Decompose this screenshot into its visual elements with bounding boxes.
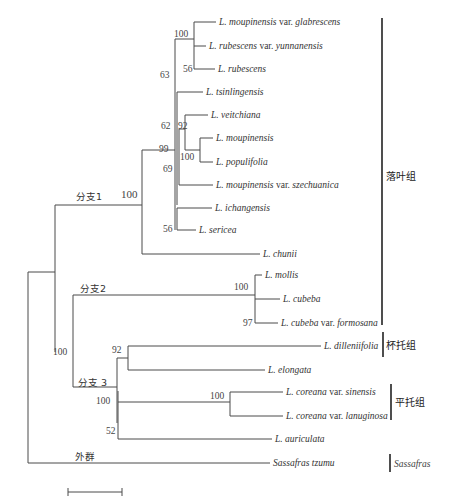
tip-label: L. rubescens <box>217 64 266 74</box>
tip-label: L. chunii <box>262 249 297 259</box>
tip-label: L. dilleniifolia <box>323 341 379 351</box>
support-value: 56 <box>163 224 173 234</box>
support-value: 100 <box>234 282 249 292</box>
support-value: 100 <box>53 347 68 357</box>
group-labels: 落叶组 杯托组 平托组 Sassafras <box>386 170 431 469</box>
phylogenetic-tree: L. moupinensis var. glabrescensL. rubesc… <box>0 0 449 497</box>
clade-label-3: 分支 3 <box>78 377 107 388</box>
support-value: 52 <box>106 426 116 436</box>
support-value: 69 <box>163 164 173 174</box>
support-value: 100 <box>180 152 195 162</box>
support-value: 62 <box>161 121 171 131</box>
tip-label: L. cubeba var. formosana <box>280 318 378 328</box>
tip-labels: L. moupinensis var. glabrescensL. rubesc… <box>198 17 388 468</box>
tip-label: L. populifolia <box>215 157 268 167</box>
group-label-flat: 平托组 <box>395 396 425 408</box>
support-value: 100 <box>96 396 111 406</box>
clade-label-1: 分支1 <box>76 191 102 202</box>
tip-label: L. moupinensis var. glabrescens <box>218 17 341 27</box>
branch-root-stem <box>28 272 270 463</box>
support-value: 99 <box>159 144 169 154</box>
tip-label: L. coreana var. lanuginosa <box>285 411 388 421</box>
tip-label: L. ichangensis <box>214 203 270 213</box>
tip-label: L. moupinensis var. szechuanica <box>215 180 339 190</box>
tree-branches <box>28 22 321 463</box>
tip-label: L. cubeba <box>282 294 321 304</box>
support-value: 100 <box>210 391 225 401</box>
support-value: 63 <box>160 70 170 80</box>
group-label-cup: 杯托组 <box>386 339 416 351</box>
tip-label: Sassafras tzumu <box>273 458 335 468</box>
clade-label-2: 分支2 <box>80 283 106 294</box>
support-value: 56 <box>183 64 193 74</box>
clade-label-outgroup: 外群 <box>75 451 95 462</box>
tip-label: L. auriculata <box>274 434 325 444</box>
clade-labels: 分支1 分支2 分支 3 外群 <box>75 191 107 462</box>
support-value: 92 <box>178 121 188 131</box>
support-value: 92 <box>112 345 122 355</box>
group-label-sassafras: Sassafras <box>394 459 431 469</box>
tip-label: L. rubescens var. yunnanensis <box>208 41 323 51</box>
tip-label: L. coreana var. sinensis <box>285 387 376 397</box>
tip-label: L. elongata <box>267 365 312 375</box>
tip-label: L. moupinensis <box>215 133 274 143</box>
scale-bar <box>68 488 122 496</box>
tip-label: L. mollis <box>264 270 299 280</box>
group-label-deciduous: 落叶组 <box>386 170 416 182</box>
support-value: 97 <box>243 318 253 328</box>
group-bars <box>382 18 391 472</box>
support-value: 100 <box>174 29 189 39</box>
tip-label: L. tsinlingensis <box>205 87 264 97</box>
tip-label: L. sericea <box>198 225 237 235</box>
tip-label: L. veitchiana <box>210 110 261 120</box>
support-value: 100 <box>121 188 138 200</box>
